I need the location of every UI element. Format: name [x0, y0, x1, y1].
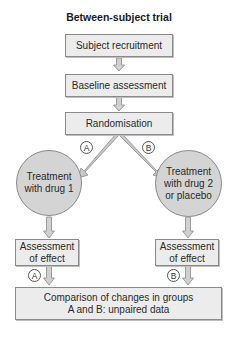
assessment-a-box: Assessment of effect — [15, 239, 79, 266]
group-a-label-top: A — [80, 141, 93, 154]
baseline-assessment-label: Baseline assessment — [72, 80, 167, 92]
randomisation-label: Randomisation — [86, 118, 153, 130]
treatment-drug2-circle: Treatment with drug 2 or placebo — [155, 150, 222, 217]
subject-recruitment-box: Subject recruitment — [65, 34, 173, 57]
group-b-label-top: B — [142, 141, 155, 154]
assessment-b-box: Assessment of effect — [155, 239, 219, 266]
treatment-drug2-label: Treatment with drug 2 or placebo — [164, 166, 213, 202]
baseline-assessment-box: Baseline assessment — [65, 74, 173, 97]
randomisation-box: Randomisation — [65, 112, 173, 135]
group-a-label-bottom: A — [28, 269, 41, 282]
treatment-drug1-circle: Treatment with drug 1 — [16, 150, 82, 216]
subject-recruitment-label: Subject recruitment — [76, 40, 162, 52]
comparison-box: Comparison of changes in groups A and B:… — [15, 287, 222, 320]
comparison-label: Comparison of changes in groups A and B:… — [44, 292, 194, 316]
treatment-drug1-label: Treatment with drug 1 — [25, 171, 74, 195]
assessment-a-label: Assessment of effect — [20, 241, 74, 265]
group-b-label-bottom: B — [167, 269, 180, 282]
assessment-b-label: Assessment of effect — [160, 241, 214, 265]
